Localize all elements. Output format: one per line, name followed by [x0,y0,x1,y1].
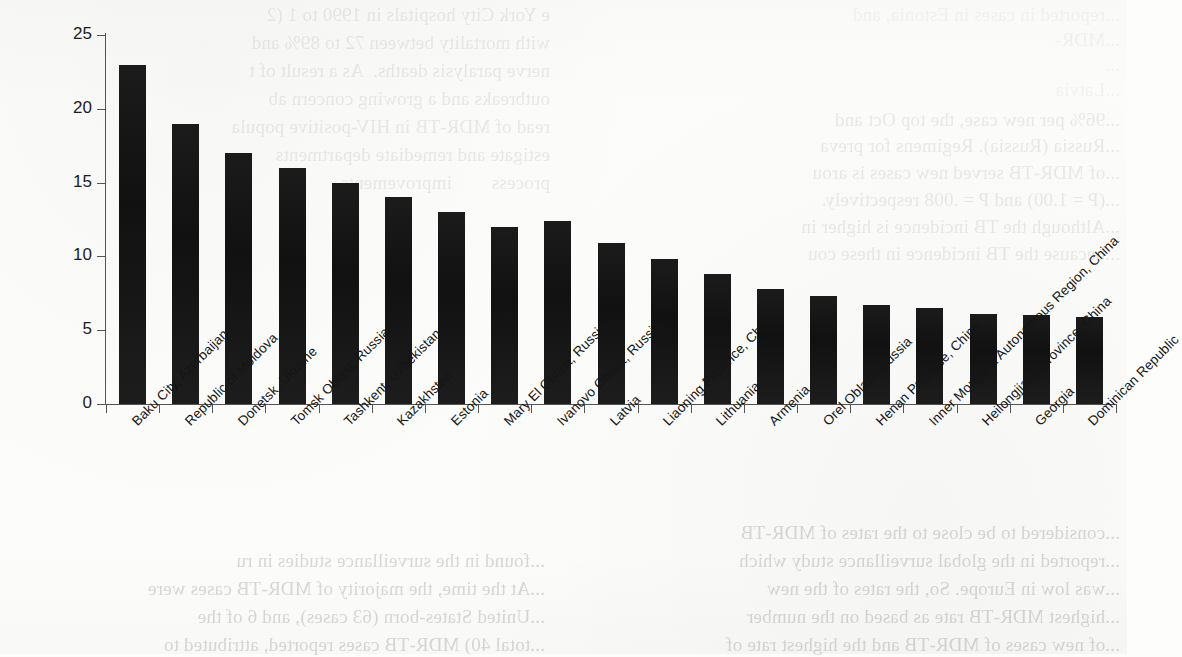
x-axis-tick-label: Mary El Oblast, Russia [501,319,610,428]
x-axis-tick-label: Estonia [448,386,491,429]
x-axis-tick-label: Ivanovo Oblast, Russia [554,318,664,428]
x-axis-tick-label: Armenia [766,382,813,429]
x-axis-tick-label: Henan Province, China [873,318,983,428]
x-axis-tick-label: Orel Oblast, Russia [820,334,915,429]
x-axis-tick-label: Inner Mongolia Autonomous Region, China [926,233,1121,428]
x-axis-tick-label: Tomsk Oblast, Russia [288,324,392,428]
x-axis-tick-label: Baku City, Azerbaijan [129,326,231,428]
x-axis-tick-label: Lithuania [713,379,763,429]
x-axis-tick-label: Tashkent, Uzbekistan [341,326,444,429]
x-axis-tick-label: Republic of Moldova [182,330,280,428]
x-axis-tick-label: Dominican Republic [1085,332,1182,429]
x-axis-tick-label: Latvia [607,392,644,429]
x-axis-tick-label: Georgia [1032,384,1077,429]
